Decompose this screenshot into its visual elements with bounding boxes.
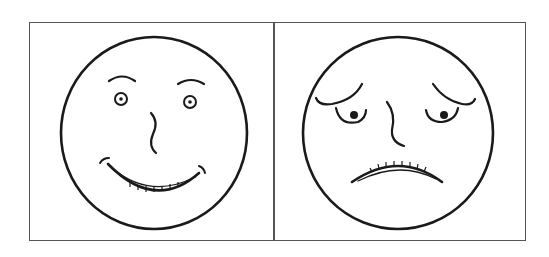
right-pupil bbox=[440, 111, 448, 119]
right-cheek-dimple bbox=[199, 166, 205, 173]
right-pupil bbox=[188, 100, 192, 104]
nose bbox=[387, 102, 404, 146]
head-outline bbox=[303, 37, 493, 229]
happy-face-icon bbox=[30, 22, 273, 241]
left-eyebrow bbox=[109, 77, 135, 82]
nose bbox=[151, 113, 156, 153]
right-brow bbox=[433, 84, 475, 104]
sad-face-icon bbox=[274, 22, 526, 241]
left-cheek-dimple bbox=[100, 158, 109, 163]
left-brow bbox=[316, 84, 362, 104]
panel-happy-label: Smiling face with raised eyebrows, ringe… bbox=[0, 0, 1, 1]
frown-upper bbox=[352, 166, 442, 182]
right-eyebrow bbox=[178, 80, 204, 84]
panel-sad-label: Worried/sad face with drooping brows, he… bbox=[0, 0, 1, 1]
left-pupil bbox=[119, 97, 123, 101]
left-pupil bbox=[350, 111, 358, 119]
